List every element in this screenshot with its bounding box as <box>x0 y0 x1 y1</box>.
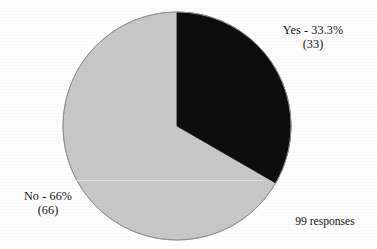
total-responses-label: 99 responses <box>275 215 375 228</box>
slice-label-yes-count: (33) <box>252 38 374 52</box>
slice-label-no: No - 66% (66) <box>2 190 94 217</box>
slice-label-no-percent: No - 66% <box>2 190 94 204</box>
slice-label-yes-percent: Yes - 33.3% <box>252 24 374 38</box>
slice-label-no-count: (66) <box>2 204 94 218</box>
slice-label-yes: Yes - 33.3% (33) <box>252 24 374 51</box>
pie-chart-figure: Yes - 33.3% (33) No - 66% (66) 99 respon… <box>0 0 377 249</box>
